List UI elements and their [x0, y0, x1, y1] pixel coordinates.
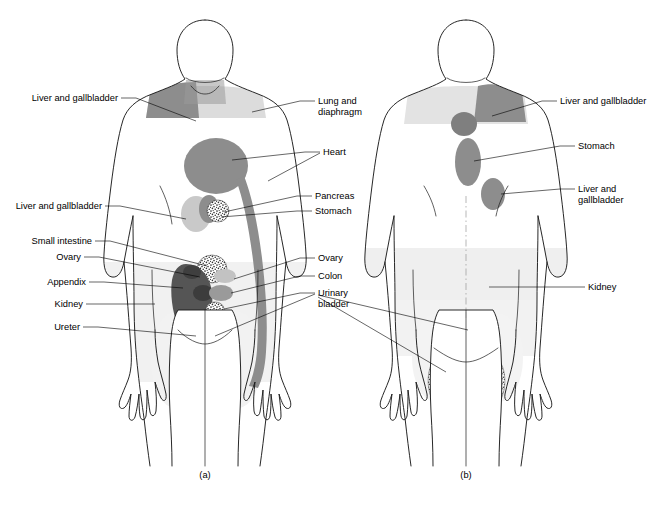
- leader-stomach-b: [474, 146, 575, 161]
- caption-a: (a): [199, 470, 210, 480]
- panel-b-labels: Liver and gallbladder Stomach Liver and …: [560, 96, 646, 292]
- label-liver-gallbladder-flank-line1: Liver and: [578, 184, 616, 194]
- thigh-pale-left-b: [412, 314, 460, 402]
- label-ureter: Ureter: [54, 322, 80, 332]
- stomach-oval-b: [455, 138, 481, 186]
- leader-pancreas: [224, 196, 312, 212]
- shoulder-liver-patch-b: [474, 84, 526, 122]
- body-outline-a-left-upper: [104, 20, 205, 277]
- label-kidney-left: Kidney: [55, 299, 84, 309]
- label-lung-diaphragm-line2: diaphragm: [318, 107, 362, 117]
- label-ovary-left: Ovary: [56, 252, 81, 262]
- label-small-intestine: Small intestine: [32, 236, 92, 246]
- ovary-right-oval: [214, 269, 236, 283]
- buttock-right-stipple: [469, 356, 505, 410]
- thigh-pale-left: [151, 312, 199, 408]
- label-urinary-bladder-line1: Urinary: [318, 288, 348, 298]
- buttock-left-stipple: [428, 356, 464, 410]
- label-kidney-b: Kidney: [588, 282, 617, 292]
- label-ovary-right: Ovary: [318, 253, 343, 263]
- pectoral-line-a: [160, 186, 172, 224]
- label-urinary-bladder-line2: bladder: [318, 299, 349, 309]
- panel-b-posterior: [362, 20, 576, 466]
- label-liver-gallbladder-upper-abdomen: Liver and gallbladder: [16, 201, 102, 211]
- neck-column-shade: [184, 80, 226, 104]
- label-stomach-a: Stomach: [315, 206, 352, 216]
- buttock-pale-shade: [362, 300, 576, 356]
- label-liver-gallbladder-shoulder-b: Liver and gallbladder: [560, 96, 646, 106]
- leader-stomach-a: [221, 211, 312, 217]
- stomach-stipple: [207, 200, 229, 222]
- body-outline-b-right-upper: [466, 20, 567, 277]
- ureter-stipple: [206, 302, 224, 316]
- caption-b: (b): [460, 470, 471, 480]
- label-colon: Colon: [318, 271, 342, 281]
- neck-base-b: [447, 78, 485, 83]
- label-liver-gallbladder-flank-line2: gallbladder: [578, 195, 624, 205]
- buttock-crease-mark: [450, 362, 466, 390]
- leader-heart-arm: [268, 153, 320, 181]
- label-appendix: Appendix: [47, 277, 86, 287]
- leader-liver-flank-b: [501, 189, 575, 194]
- figure-canvas: Liver and gallbladder Liver and gallblad…: [0, 0, 661, 516]
- heart-circle-b: [451, 112, 477, 136]
- body-outline-b-left-upper: [365, 20, 466, 277]
- referred-pain-diagram: Liver and gallbladder Liver and gallblad…: [0, 0, 661, 516]
- panel-a-anterior: [100, 20, 315, 466]
- leader-liver-epigastric-a: [105, 206, 186, 219]
- colon-oval: [209, 285, 233, 301]
- bladder-stipple: [197, 325, 219, 343]
- label-liver-gallbladder-shoulder-a: Liver and gallbladder: [32, 93, 118, 103]
- scapula-line-left: [424, 186, 436, 216]
- label-heart: Heart: [323, 147, 346, 157]
- label-stomach-b: Stomach: [578, 141, 615, 151]
- label-pancreas: Pancreas: [315, 191, 355, 201]
- label-lung-diaphragm-line1: Lung and: [318, 96, 357, 106]
